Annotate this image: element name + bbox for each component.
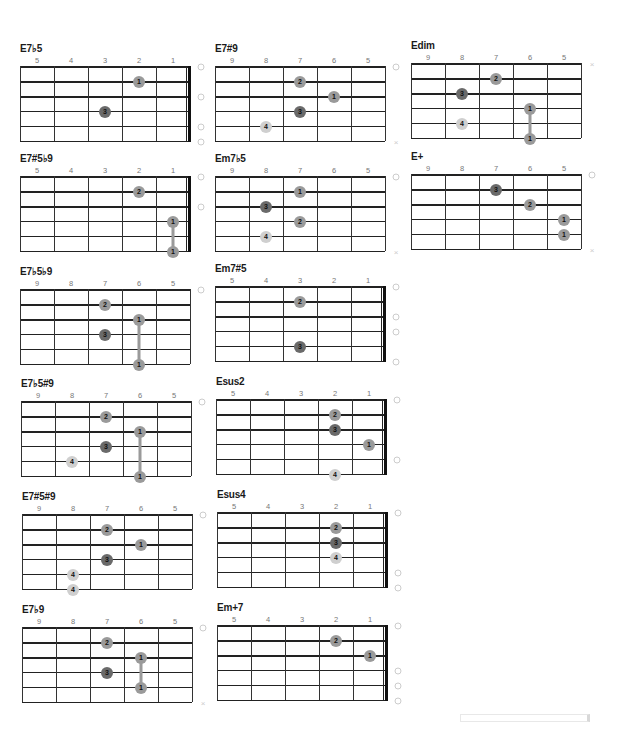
string-line (215, 141, 385, 142)
fret-line (215, 176, 216, 251)
string-line (21, 461, 191, 462)
fret-line (547, 174, 548, 249)
fret-line (283, 286, 284, 361)
string-line (216, 399, 386, 401)
chord-name: Em7#5 (215, 263, 246, 274)
nut-edge (383, 625, 384, 701)
fret-line (319, 512, 320, 587)
string-line (215, 316, 385, 318)
fret-number: 7 (88, 279, 122, 288)
fret-number: 5 (158, 617, 192, 626)
fret-line (353, 625, 354, 700)
fretboard: 2134× (215, 66, 385, 141)
string-line (216, 459, 386, 460)
fret-number: 2 (319, 502, 353, 511)
fret-line (123, 401, 124, 476)
fret-number: 8 (56, 617, 90, 626)
fret-number: 5 (217, 615, 251, 624)
fret-line (88, 289, 89, 364)
fret-number: 6 (123, 391, 157, 400)
fret-line (411, 174, 412, 249)
string-line (411, 63, 581, 65)
fret-number: 4 (251, 615, 285, 624)
fret-line (90, 514, 91, 589)
open-string-icon (198, 139, 205, 146)
fret-number: 8 (54, 279, 88, 288)
fret-line (122, 66, 123, 141)
chord-diagram: Edim9876523141× (411, 40, 606, 150)
nut (188, 66, 191, 142)
string-line (20, 349, 190, 350)
nut-edge (381, 286, 382, 362)
fret-number: 5 (20, 166, 54, 175)
fret-number: 1 (351, 276, 385, 285)
string-line (216, 414, 386, 416)
string-line (215, 126, 385, 127)
chord-name: E+ (411, 151, 423, 162)
fret-numbers: 54321 (216, 389, 386, 399)
chord-diagram: Em+75432121 (217, 602, 412, 712)
finger-dot: 1 (294, 186, 306, 198)
fret-line (88, 176, 89, 251)
open-string-icon (199, 399, 206, 406)
string-line (215, 236, 385, 237)
fret-line (445, 174, 446, 249)
fret-numbers: 98765 (215, 56, 385, 66)
chord-name: Esus2 (216, 376, 244, 387)
fret-number: 4 (249, 276, 283, 285)
string-line (217, 572, 387, 573)
finger-dot: 3 (100, 441, 112, 453)
fret-number: 2 (319, 615, 353, 624)
chord-diagram: E+987653211× (411, 151, 606, 261)
string-line (21, 431, 191, 433)
fretboard: 2131 (20, 289, 190, 364)
fret-number: 7 (479, 53, 513, 62)
string-line (411, 123, 581, 124)
finger-dot: 3 (490, 184, 502, 196)
fret-numbers: 54321 (217, 615, 387, 625)
fret-number: 3 (285, 502, 319, 511)
finger-dot: 4 (67, 584, 79, 596)
string-line (20, 126, 190, 127)
chord-name: E7♭5#9 (21, 378, 54, 389)
fret-line (351, 286, 352, 361)
chord-name: Em7♭5 (215, 153, 246, 164)
fret-number: 7 (283, 56, 317, 65)
fret-number: 6 (124, 504, 158, 513)
fret-line (20, 66, 21, 141)
fret-number: 9 (215, 56, 249, 65)
fret-numbers: 98765 (22, 504, 192, 514)
fret-number: 5 (547, 53, 581, 62)
fret-line (216, 399, 217, 474)
finger-dot: 2 (99, 299, 111, 311)
fret-number: 8 (56, 504, 90, 513)
string-line (20, 221, 190, 222)
string-line (411, 138, 581, 139)
fret-number: 5 (20, 56, 54, 65)
fretboard: 2314 (216, 399, 386, 474)
fret-line (445, 63, 446, 138)
fret-number: 3 (284, 389, 318, 398)
fret-line (353, 512, 354, 587)
string-line (20, 206, 190, 208)
horizontal-scrollbar[interactable] (460, 714, 590, 722)
fret-line (251, 625, 252, 700)
open-string-icon (395, 585, 402, 592)
fret-line (122, 289, 123, 364)
fret-line (190, 289, 191, 364)
finger-dot: 3 (330, 537, 342, 549)
fretboard: 21 (217, 625, 387, 700)
fretboard: 21341 (21, 401, 191, 476)
fret-line (122, 176, 123, 251)
fret-number: 9 (22, 504, 56, 513)
string-line (217, 557, 387, 558)
fret-number: 5 (158, 504, 192, 513)
chord-diagram: Em7♭5987651324× (215, 153, 410, 263)
string-line (215, 331, 385, 332)
finger-dot: 2 (524, 199, 536, 211)
fret-line (317, 286, 318, 361)
fretboard: 211 (20, 176, 190, 251)
fret-line (352, 399, 353, 474)
fret-line (351, 176, 352, 251)
nut (385, 625, 388, 701)
